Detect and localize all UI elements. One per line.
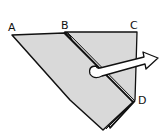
origami-diagram: A B C D <box>0 0 163 138</box>
label-d: D <box>138 94 146 107</box>
label-b: B <box>61 19 69 32</box>
label-a: A <box>8 21 16 34</box>
label-c: C <box>130 19 138 32</box>
